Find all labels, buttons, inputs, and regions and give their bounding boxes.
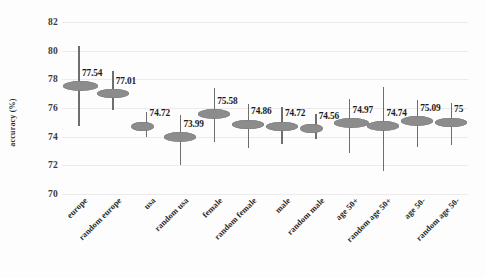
x-axis-labels: europerandom europeusarandom usafemalera…	[62, 196, 468, 278]
y-tick-label: 78	[18, 74, 58, 84]
data-point-marker	[232, 120, 264, 130]
x-tick-label: usa	[142, 196, 157, 211]
y-tick-label: 74	[18, 132, 58, 142]
data-point-value-label: 75	[454, 104, 463, 114]
data-point-marker	[367, 121, 399, 131]
gridline	[62, 165, 468, 166]
data-point-marker	[198, 109, 230, 119]
data-point-value-label: 73.99	[183, 119, 203, 129]
plot-area: 77.5477.0174.7273.9975.5874.8674.7274.56…	[62, 22, 468, 194]
data-point-value-label: 74.72	[285, 108, 305, 118]
x-tick-label: male	[273, 196, 292, 215]
y-axis-ticks: 70727476788082	[0, 22, 58, 194]
data-point-value-label: 77.54	[82, 68, 102, 78]
y-tick-label: 70	[18, 189, 58, 199]
x-tick-label: europe	[65, 196, 89, 220]
data-point-value-label: 77.01	[116, 76, 136, 86]
data-point-marker	[131, 122, 154, 132]
data-point-value-label: 74.86	[251, 106, 271, 116]
data-point-marker	[300, 124, 323, 134]
y-tick-label: 76	[18, 103, 58, 113]
data-point-marker	[97, 89, 129, 99]
accuracy-scatter-chart: accuracy (%) 70727476788082 77.5477.0174…	[0, 0, 485, 278]
y-tick-label: 82	[18, 17, 58, 27]
gridline	[62, 194, 468, 195]
data-point-value-label: 74.72	[150, 108, 170, 118]
x-tick-label: age 50+	[334, 196, 360, 222]
data-point-marker	[401, 116, 433, 126]
data-point-value-label: 75.09	[420, 103, 440, 113]
x-tick-label: age 50-	[403, 196, 428, 221]
gridline	[62, 51, 468, 52]
gridline	[62, 22, 468, 23]
gridline	[62, 137, 468, 138]
data-point-marker	[266, 122, 298, 132]
data-point-marker	[63, 81, 98, 91]
y-tick-label: 72	[18, 160, 58, 170]
data-point-marker	[164, 132, 196, 142]
x-tick-label: female	[201, 196, 225, 220]
data-point-marker	[334, 118, 369, 128]
x-tick-label: random usa	[154, 196, 191, 233]
y-tick-label: 80	[18, 46, 58, 56]
data-point-value-label: 75.58	[217, 96, 237, 106]
data-point-value-label: 74.74	[386, 108, 406, 118]
data-point-value-label: 74.97	[353, 105, 373, 115]
data-point-marker	[435, 118, 467, 128]
